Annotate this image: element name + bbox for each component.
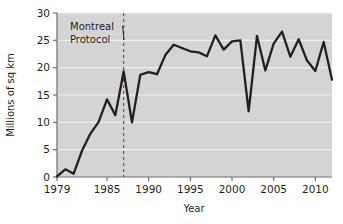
y-tick-label: 0 — [43, 171, 50, 183]
x-tick-label: 1979 — [44, 183, 71, 195]
annotation-montreal-line1: Montreal — [70, 21, 114, 32]
y-axis-title: Millions of sq km — [5, 53, 16, 137]
ozone-hole-line-chart: 051015202530 197919851990199520002005201… — [0, 0, 343, 224]
x-tick-label: 1985 — [94, 183, 121, 195]
x-tick-label: 1995 — [177, 183, 204, 195]
y-tick-label: 10 — [37, 116, 50, 128]
x-tick-label: 2000 — [219, 183, 246, 195]
y-tick-label: 30 — [37, 7, 50, 19]
x-tick-label: 1990 — [135, 183, 162, 195]
annotation-montreal-line2: Protocol — [70, 34, 110, 45]
x-tick-label: 2010 — [302, 183, 329, 195]
y-tick-label: 20 — [37, 61, 50, 73]
x-tick-label: 2005 — [260, 183, 287, 195]
y-tick-label: 5 — [43, 143, 50, 155]
x-axis-title: Year — [182, 203, 205, 214]
y-tick-label: 25 — [37, 34, 50, 46]
chart-figure: 051015202530 197919851990199520002005201… — [0, 0, 343, 224]
y-tick-label: 15 — [37, 89, 50, 101]
